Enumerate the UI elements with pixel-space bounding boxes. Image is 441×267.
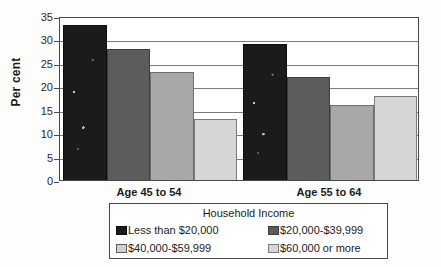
legend-item[interactable]: $40,000-$59,999 <box>116 242 268 254</box>
y-axis-tick <box>54 41 59 42</box>
y-axis-tick-label: 5 <box>27 153 53 163</box>
y-axis-tick-label: 25 <box>27 59 53 69</box>
legend-title: Household Income <box>110 206 387 221</box>
y-axis-tick <box>54 159 59 160</box>
y-axis-tick-label: 10 <box>27 129 53 139</box>
legend-swatch-icon <box>268 244 279 253</box>
bar <box>374 96 418 180</box>
y-axis-tick-label: 30 <box>27 35 53 45</box>
bar <box>150 72 194 180</box>
legend-item-label: $60,000 or more <box>280 242 361 254</box>
legend-item[interactable]: Less than $20,000 <box>116 224 268 236</box>
legend-item-label: $40,000-$59,999 <box>128 242 211 254</box>
legend-row: Less than $20,000 $20,000-$39,999 <box>110 221 387 239</box>
bar-series-container <box>60 18 418 180</box>
y-axis-tick-label: 0 <box>27 176 53 186</box>
legend-item[interactable]: $20,000-$39,999 <box>268 224 363 236</box>
legend-item[interactable]: $60,000 or more <box>268 242 361 254</box>
y-axis-tick <box>54 18 59 19</box>
legend-row: $40,000-$59,999 $60,000 or more <box>110 239 387 257</box>
legend-swatch-icon <box>268 226 279 235</box>
y-axis-title: Per cent <box>9 37 29 127</box>
plot-area <box>59 17 419 181</box>
x-axis-group-label: Age 55 to 64 <box>239 186 419 198</box>
y-axis-tick <box>54 65 59 66</box>
bar <box>243 44 287 180</box>
y-axis-tick-label: 35 <box>27 12 53 22</box>
legend-swatch-icon <box>116 226 127 235</box>
bar <box>194 119 238 180</box>
bar <box>107 49 151 180</box>
y-axis-tick <box>54 182 59 183</box>
legend-swatch-icon <box>116 244 127 253</box>
y-axis-tick-label: 15 <box>27 106 53 116</box>
y-axis-tick <box>54 135 59 136</box>
bar <box>63 25 107 180</box>
bar-chart: Per cent 35302520151050 Age 45 to 54Age … <box>0 0 441 267</box>
legend-item-label: $20,000-$39,999 <box>280 224 363 236</box>
y-axis-tick <box>54 112 59 113</box>
x-axis-group-label: Age 45 to 54 <box>59 186 239 198</box>
bar <box>287 77 331 180</box>
y-axis-tick-labels: 35302520151050 <box>27 17 53 181</box>
legend-item-label: Less than $20,000 <box>128 224 219 236</box>
bar <box>330 105 374 180</box>
y-axis-tick-label: 20 <box>27 82 53 92</box>
y-axis-tick <box>54 88 59 89</box>
legend: Household Income Less than $20,000 $20,0… <box>109 203 388 259</box>
